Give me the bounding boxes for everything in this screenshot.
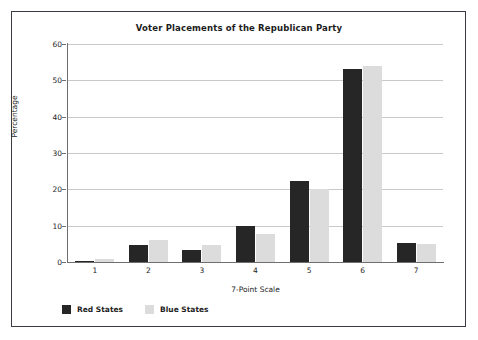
red-swatch-icon (62, 305, 71, 314)
y-tick-label-10: 10 (38, 222, 62, 231)
y-tick-mark-50 (62, 80, 66, 81)
y-tick-label-60: 60 (38, 40, 62, 49)
bar-blue-states-3 (202, 245, 221, 262)
legend-entry-blue-states: Blue States (145, 305, 209, 314)
chart-legend: Red StatesBlue States (62, 305, 231, 314)
x-axis-tick-labels: 1234567 (68, 266, 443, 280)
x-tick-label-1: 1 (80, 266, 110, 275)
legend-entry-red-states: Red States (62, 305, 123, 314)
bar-blue-states-7 (417, 244, 436, 263)
y-tick-label-50: 50 (38, 76, 62, 85)
blue-swatch-icon (145, 305, 154, 314)
x-tick-label-2: 2 (133, 266, 163, 275)
x-tick-label-5: 5 (294, 266, 324, 275)
bar-red-states-7 (397, 243, 416, 262)
bar-group-2 (129, 44, 168, 262)
y-tick-mark-0 (62, 262, 66, 263)
y-tick-label-20: 20 (38, 185, 62, 194)
bar-red-states-5 (290, 181, 309, 262)
gridline-0 (68, 262, 443, 263)
y-tick-mark-30 (62, 153, 66, 154)
x-tick-label-3: 3 (187, 266, 217, 275)
bar-group-3 (182, 44, 221, 262)
legend-label: Blue States (160, 305, 209, 314)
x-tick-label-4: 4 (241, 266, 271, 275)
x-tick-label-7: 7 (401, 266, 431, 275)
bar-blue-states-4 (256, 234, 275, 262)
bar-group-7 (397, 44, 436, 262)
y-tick-mark-10 (62, 226, 66, 227)
bar-red-states-2 (129, 245, 148, 262)
bar-blue-states-6 (363, 66, 382, 262)
chart-figure: Voter Placements of the Republican Party… (0, 0, 478, 340)
y-axis-title: Percentage (10, 72, 19, 162)
bar-group-5 (290, 44, 329, 262)
bar-group-1 (75, 44, 114, 262)
bar-red-states-4 (236, 226, 255, 262)
y-tick-label-40: 40 (38, 113, 62, 122)
x-axis-title: 7-Point Scale (68, 285, 443, 294)
y-tick-mark-60 (62, 44, 66, 45)
plot-area (68, 44, 443, 262)
legend-label: Red States (77, 305, 123, 314)
y-tick-mark-20 (62, 189, 66, 190)
bar-red-states-6 (343, 69, 362, 262)
y-tick-label-0: 0 (38, 258, 62, 267)
bar-group-4 (236, 44, 275, 262)
x-tick-label-6: 6 (348, 266, 378, 275)
bar-red-states-1 (75, 261, 94, 262)
bar-blue-states-5 (310, 189, 329, 262)
bar-red-states-3 (182, 250, 201, 262)
y-tick-label-30: 30 (38, 149, 62, 158)
bar-blue-states-2 (149, 240, 168, 262)
bar-blue-states-1 (95, 259, 114, 262)
bar-group-6 (343, 44, 382, 262)
y-axis-tick-labels: 0102030405060 (36, 44, 62, 262)
y-tick-mark-40 (62, 117, 66, 118)
chart-title: Voter Placements of the Republican Party (0, 23, 478, 33)
